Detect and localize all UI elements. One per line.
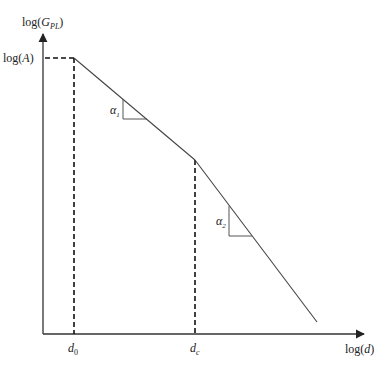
x-tick-d0: d0 <box>68 341 78 357</box>
y-tick-log-a: log(A) <box>3 51 34 65</box>
path-loss-diagram: log(GPL) log(A) α1 α2 d0 dc log(d) <box>0 0 389 373</box>
x-axis-label: log(d) <box>345 342 374 356</box>
slope-segment-2 <box>195 160 317 322</box>
slope-segment-1 <box>74 58 195 160</box>
slope-label-alpha2: α2 <box>216 214 226 230</box>
slope-label-alpha1: α1 <box>110 103 120 119</box>
y-axis-label: log(GPL) <box>22 15 63 31</box>
x-tick-dc: dc <box>190 341 200 357</box>
